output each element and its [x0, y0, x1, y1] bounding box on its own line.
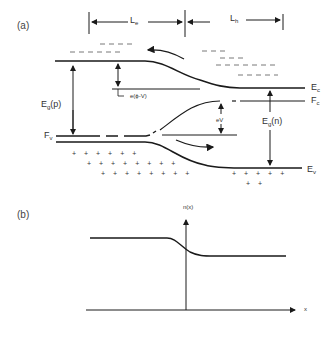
- conduction-band-label: Ec: [311, 83, 320, 92]
- electron-flow-arrow: [148, 50, 184, 59]
- holes-p-row-1: + + + + + +: [72, 150, 139, 157]
- hole-flow-arrow: [176, 140, 213, 147]
- applied-voltage-label: eV: [216, 117, 223, 123]
- electron-fermi-level-label: Fc: [311, 96, 320, 105]
- holes-n-row-2: + +: [246, 180, 265, 187]
- holes-p-row-2: + + + + + + + +: [87, 160, 178, 167]
- band-diagram-figure: (a) Le Lh Ec Fc Fv Ev Eg(p) Eg(n) e(ϕ-V)…: [0, 0, 332, 338]
- concentration-profile: [90, 238, 286, 256]
- hole-quasi-fermi-level: [56, 131, 156, 136]
- x-axis-label: x: [304, 306, 307, 312]
- bandgap-p-label: Eg(p): [41, 100, 61, 109]
- y-axis-label: n(x): [183, 204, 193, 210]
- diagram-canvas: [0, 0, 332, 338]
- valence-band-label: Ev: [307, 165, 316, 174]
- bandgap-n-label: Eg(n): [262, 117, 282, 126]
- hole-fermi-level-label: Fv: [44, 131, 53, 140]
- panel-b-label: (b): [17, 210, 29, 220]
- holes-p-row-3: + + + + + + + +: [101, 170, 192, 177]
- hole-diffusion-length-label: Lh: [230, 14, 238, 23]
- electron-diffusion-length-label: Le: [130, 16, 138, 25]
- diffusion-length-bar: [89, 10, 283, 37]
- electron-dashes: [70, 44, 278, 75]
- panel-a-label: (a): [17, 21, 29, 31]
- holes-n-row-1: + + + + +: [232, 170, 287, 177]
- conduction-band-edge: [55, 61, 305, 88]
- barrier-height-label: e(ϕ-V): [130, 93, 147, 99]
